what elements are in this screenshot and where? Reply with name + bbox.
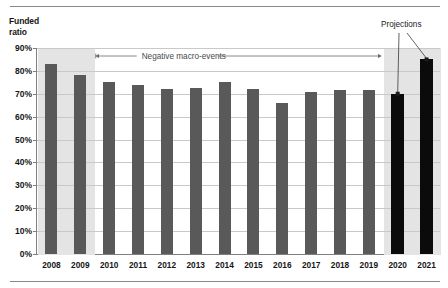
x-tick-label-2013: 2013 [181,260,211,270]
plot-inner: 0%10%20%30%40%50%60%70%80%90%20082009201… [36,48,440,255]
y-tick-mark-60% [33,117,36,118]
bar-2008[interactable] [45,64,57,254]
x-tick-label-2017: 2017 [296,260,326,270]
gridline-10% [37,231,440,232]
bar-2017[interactable] [305,92,317,255]
bar-2021[interactable] [420,59,433,254]
bar-2011[interactable] [132,85,144,254]
bar-2018[interactable] [334,90,346,254]
bar-2015[interactable] [247,89,259,254]
y-tick-label-70%: 70% [2,89,32,99]
y-tick-label-90%: 90% [2,43,32,53]
gridline-70% [37,94,440,95]
y-tick-label-80%: 80% [2,66,32,76]
x-tick-label-2014: 2014 [210,260,240,270]
y-tick-mark-50% [33,140,36,141]
bar-2014[interactable] [219,82,231,254]
x-axis-line [36,254,440,255]
y-axis-title: Funded ratio [9,16,39,37]
gridline-20% [37,208,440,209]
y-tick-label-10%: 10% [2,226,32,236]
gridline-40% [37,162,440,163]
x-tick-label-2020: 2020 [383,260,413,270]
y-tick-label-60%: 60% [2,112,32,122]
y-tick-label-20%: 20% [2,203,32,213]
bar-2009[interactable] [74,75,86,254]
y-tick-label-30%: 30% [2,180,32,190]
plot-area: 0%10%20%30%40%50%60%70%80%90%20082009201… [36,48,440,255]
y-tick-mark-80% [33,71,36,72]
x-tick-label-2010: 2010 [94,260,124,270]
x-tick-label-2019: 2019 [354,260,384,270]
x-tick-label-2008: 2008 [36,260,66,270]
x-tick-label-2015: 2015 [238,260,268,270]
y-tick-mark-40% [33,162,36,163]
gridline-90% [37,48,440,49]
gridline-50% [37,140,440,141]
x-tick-label-2018: 2018 [325,260,355,270]
x-tick-label-2016: 2016 [267,260,297,270]
bar-2013[interactable] [190,88,202,254]
y-tick-label-50%: 50% [2,135,32,145]
bottom-divider-rule [10,281,440,282]
y-axis-title-line1: Funded [9,16,39,27]
y-tick-mark-30% [33,185,36,186]
x-tick-label-2009: 2009 [65,260,95,270]
annotation-projections: Projections [381,20,422,29]
annotation-negative-macro-events: Negative macro-events [142,52,226,61]
y-tick-mark-10% [33,231,36,232]
gridline-30% [37,185,440,186]
x-tick-label-2021: 2021 [412,260,442,270]
y-tick-mark-20% [33,208,36,209]
bar-2016[interactable] [276,103,288,254]
gridline-60% [37,117,440,118]
bar-2020[interactable] [391,94,404,254]
y-tick-mark-70% [33,94,36,95]
y-tick-label-0%: 0% [2,249,32,259]
x-tick-label-2011: 2011 [123,260,153,270]
bar-2010[interactable] [103,82,115,254]
y-tick-mark-0% [33,254,36,255]
chart-figure: Funded ratio 0%10%20%30%40%50%60%70%80%9… [0,0,448,288]
bar-2012[interactable] [161,89,173,254]
gridline-80% [37,71,440,72]
bar-2019[interactable] [363,90,375,254]
x-tick-label-2012: 2012 [152,260,182,270]
y-tick-mark-90% [33,48,36,49]
top-divider-rule [10,6,440,7]
y-tick-label-40%: 40% [2,157,32,167]
y-axis-title-line2: ratio [9,27,39,38]
